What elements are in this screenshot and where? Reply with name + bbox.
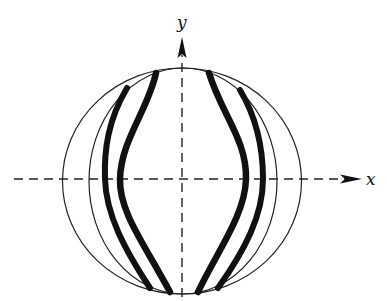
- y-axis-label: y: [176, 12, 187, 32]
- strand-outer-right: [218, 90, 263, 288]
- diagram-canvas: x y: [0, 0, 387, 301]
- strand-inner-left: [120, 73, 170, 292]
- y-axis-arrow-icon: [178, 37, 187, 58]
- x-axis-arrow-icon: [340, 175, 362, 184]
- x-axis-label: x: [366, 169, 376, 189]
- strand-outer-left: [105, 88, 150, 288]
